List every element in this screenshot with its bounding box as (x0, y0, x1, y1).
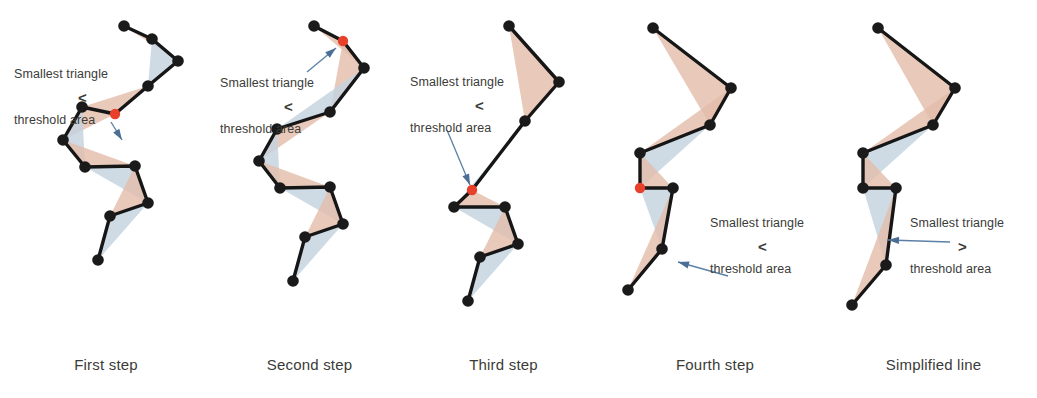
vertex-point (172, 55, 184, 67)
vertex-point (118, 20, 130, 32)
polyline-diagram-first-step (0, 0, 212, 340)
smallest-triangle-label: Smallest triangle (220, 76, 314, 90)
vertex-point (324, 181, 336, 193)
vertex-point (846, 299, 858, 311)
threshold-area-label: threshold area (710, 262, 791, 276)
vertex-point (499, 201, 511, 213)
panel-fourth-step: Smallest triangle<threshold areaFourth s… (600, 0, 830, 398)
removed-vertex-marker (467, 185, 477, 195)
vertex-point (57, 134, 69, 146)
vertex-point (725, 82, 737, 94)
vertex-point (274, 182, 286, 194)
vertex-point (287, 275, 299, 287)
vertex-point (890, 182, 902, 194)
polyline-diagram-simplified-line (830, 0, 1037, 340)
panel-caption-third-step: Third step (407, 356, 600, 373)
comparison-operator: > (958, 238, 967, 255)
vertex-point (253, 155, 265, 167)
vertex-point (704, 119, 716, 131)
vertex-point (927, 119, 939, 131)
vertex-point (104, 210, 116, 222)
vertex-point (622, 284, 634, 296)
comparison-operator: < (78, 89, 87, 106)
panel-third-step: Smallest triangle<threshold areaThird st… (407, 0, 600, 398)
removed-vertex-marker (338, 36, 348, 46)
vertex-point (634, 147, 646, 159)
vertex-point (146, 33, 158, 45)
smallest-triangle-label: Smallest triangle (14, 67, 108, 81)
polyline-diagram-second-step (212, 0, 407, 340)
panel-caption-first-step: First step (0, 356, 212, 373)
vertex-point (142, 197, 154, 209)
vertex-point (656, 243, 668, 255)
vertex-point (448, 201, 460, 213)
smallest-triangle-label: Smallest triangle (710, 216, 804, 230)
comparison-operator: < (758, 238, 767, 255)
panel-first-step: Smallest triangle<threshold areaFirst st… (0, 0, 212, 398)
panel-second-step: Smallest triangle<threshold areaSecond s… (212, 0, 407, 398)
annotation-arrowhead-icon (678, 261, 690, 268)
panel-caption-fourth-step: Fourth step (600, 356, 830, 373)
polyline-diagram-fourth-step (600, 0, 830, 340)
threshold-area-label: threshold area (14, 113, 95, 127)
panel-caption-second-step: Second step (212, 356, 407, 373)
annotation-arrowhead-icon (113, 129, 122, 140)
smallest-triangle-label: Smallest triangle (410, 75, 504, 89)
vertex-point (337, 218, 349, 230)
vertex-point (324, 106, 336, 118)
vertex-point (667, 182, 679, 194)
vertex-point (949, 82, 961, 94)
comparison-operator: < (475, 97, 484, 114)
vertex-point (79, 161, 91, 173)
vertex-point (553, 76, 565, 88)
vertex-point (299, 231, 311, 243)
threshold-area-label: threshold area (910, 262, 991, 276)
threshold-area-label: threshold area (220, 122, 301, 136)
comparison-operator: < (284, 98, 293, 115)
vertex-point (129, 160, 141, 172)
vertex-point (142, 80, 154, 92)
annotation-arrowhead-icon (462, 173, 470, 185)
vertex-point (512, 238, 524, 250)
removed-vertex-marker (635, 183, 645, 193)
vertex-point (647, 22, 659, 34)
panel-simplified-line: Smallest triangle>threshold areaSimplifi… (830, 0, 1037, 398)
polyline-diagram-third-step (407, 0, 600, 340)
vertex-point (503, 20, 515, 32)
vertex-point (308, 20, 320, 32)
vertex-point (872, 22, 884, 34)
removed-vertex-marker (110, 109, 120, 119)
smallest-triangle-label: Smallest triangle (910, 216, 1004, 230)
vertex-point (857, 182, 869, 194)
panel-caption-simplified-line: Simplified line (830, 356, 1037, 373)
vertex-point (358, 62, 370, 74)
vertex-point (880, 259, 892, 271)
vertex-point (474, 251, 486, 263)
vertex-point (857, 147, 869, 159)
threshold-area-label: threshold area (410, 121, 491, 135)
vertex-point (462, 295, 474, 307)
figure-canvas: Smallest triangle<threshold areaFirst st… (0, 0, 1037, 398)
vertex-point (519, 115, 531, 127)
vertex-point (92, 254, 104, 266)
